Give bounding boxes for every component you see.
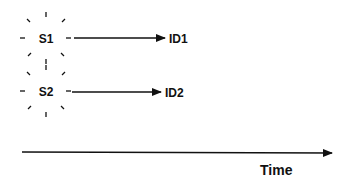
- time-axis-arrow: [22, 152, 332, 153]
- diagram-svg: S1 ID1 S2 ID2 Time: [0, 0, 351, 187]
- target-label-id1: ID1: [169, 32, 188, 46]
- diagram-canvas: S1 ID1 S2 ID2 Time: [0, 0, 351, 187]
- source-label: S2: [39, 85, 54, 99]
- time-axis-label: Time: [260, 162, 293, 178]
- source-label: S1: [39, 32, 54, 46]
- source-s1: S1: [20, 12, 71, 64]
- target-label-id2: ID2: [165, 86, 184, 100]
- source-s2: S2: [20, 65, 71, 117]
